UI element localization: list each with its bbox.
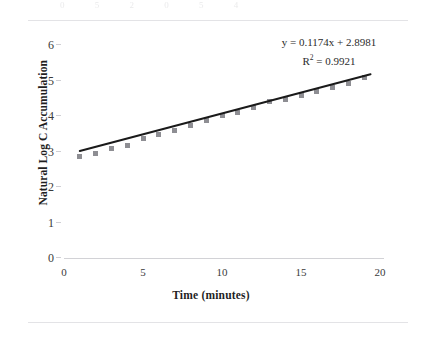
data-point-marker [172,128,177,133]
data-point-marker [125,143,130,148]
plot-area [64,45,380,258]
data-point-marker [77,154,82,159]
data-point-marker [299,93,304,98]
x-tick-label: 5 [131,266,155,278]
x-tick-label: 20 [368,266,392,278]
r-squared-exponent: 2 [310,53,314,62]
y-tick-mark [56,222,61,223]
x-axis-title: Time (minutes) [0,289,422,301]
figure-chart: 0123456 05101520 Time (minutes) Natural … [0,0,422,337]
y-tick-mark [56,257,61,258]
y-tick-mark [56,44,61,45]
x-tick-label: 10 [210,266,234,278]
x-tick-label: 15 [289,266,313,278]
data-point-marker [93,151,98,156]
x-tick-label: 0 [52,266,76,278]
data-point-marker [156,132,161,137]
data-point-marker [251,105,256,110]
data-point-marker [314,89,319,94]
data-point-marker [109,146,114,151]
data-point-marker [267,99,272,104]
data-point-marker [141,136,146,141]
y-tick-mark [56,186,61,187]
y-axis-title: Natural Log C Accumulation [37,60,49,205]
r-squared-value: = 0.9921 [316,55,355,67]
x-axis-line [64,258,384,259]
data-point-marker [330,85,335,90]
data-point-marker [235,110,240,115]
data-point-marker [188,123,193,128]
data-point-marker [283,97,288,102]
trendline-annotation: y = 0.1174x + 2.8981 R2 = 0.9921 [258,34,400,69]
data-point-marker [362,75,367,80]
data-point-marker [346,81,351,86]
y-tick-label: 6 [28,39,54,51]
y-tick-mark [56,80,61,81]
y-tick-mark [56,115,61,116]
trendline-equation: y = 0.1174x + 2.8981 [258,34,400,50]
data-point-marker [204,118,209,123]
trendline-r-squared: R2 = 0.9921 [258,50,400,69]
y-axis-title-wrap: Natural Log C Accumulation [23,60,41,260]
y-tick-mark [56,151,61,152]
data-point-marker [220,113,225,118]
r-squared-symbol: R [302,55,309,67]
